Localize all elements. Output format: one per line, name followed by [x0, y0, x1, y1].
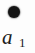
marker-label-subscript: 1 — [19, 36, 26, 49]
marker-area — [0, 0, 35, 24]
series-marker-legend-fragment: a 1 — [0, 0, 35, 53]
marker-label: a 1 — [0, 24, 35, 53]
filled-circle-marker-icon — [8, 6, 20, 18]
marker-label-base: a — [2, 27, 13, 48]
